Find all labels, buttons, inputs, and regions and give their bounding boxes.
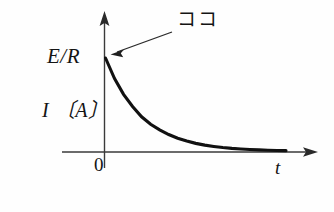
y-axis bbox=[100, 11, 110, 168]
annotation-label-koko: ココ bbox=[177, 10, 219, 29]
y-axis-value-label: E/R bbox=[47, 46, 80, 67]
annotation-arrowhead bbox=[111, 50, 125, 58]
annotation-arrow bbox=[111, 32, 173, 57]
decay-curve bbox=[106, 58, 287, 151]
y-axis-quantity-label: I 〔A〕 bbox=[42, 100, 108, 120]
annotation-arrow-shaft bbox=[117, 32, 172, 52]
x-axis-label: t bbox=[275, 158, 280, 177]
origin-label: 0 bbox=[94, 155, 104, 174]
exponential-decay-figure: E/R I 〔A〕 0 t ココ bbox=[0, 0, 334, 212]
